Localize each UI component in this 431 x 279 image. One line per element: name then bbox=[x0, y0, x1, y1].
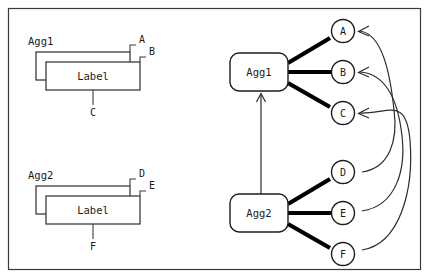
edge-f-to-c bbox=[360, 110, 411, 250]
circle-node-b[interactable]: B bbox=[332, 61, 355, 84]
agg1-corner-label-a: A bbox=[139, 34, 145, 45]
circle-node-d[interactable]: D bbox=[332, 161, 355, 184]
agg2-corner-label-d: D bbox=[139, 168, 145, 179]
edge-agg1-to-c bbox=[288, 83, 330, 107]
node-agg2[interactable]: Agg2 bbox=[230, 194, 288, 232]
agg1-edges-group bbox=[288, 38, 331, 107]
edge-agg2-to-agg1 bbox=[257, 94, 266, 197]
circle-d-label: D bbox=[340, 167, 346, 178]
circle-f-label: F bbox=[340, 249, 346, 260]
diagram-border bbox=[9, 9, 421, 270]
node-agg1-label: Agg1 bbox=[246, 66, 271, 78]
circle-node-c[interactable]: C bbox=[332, 102, 355, 125]
circle-b-label: B bbox=[340, 67, 346, 78]
edge-agg2-to-f bbox=[288, 224, 330, 248]
agg2-corner-label-e: E bbox=[149, 180, 155, 191]
agg1-group-title: Agg1 bbox=[28, 35, 53, 47]
node-agg1[interactable]: Agg1 bbox=[230, 53, 288, 91]
circle-node-e[interactable]: E bbox=[332, 202, 355, 225]
agg2-leader-e bbox=[140, 191, 146, 196]
node-agg2-label: Agg2 bbox=[246, 207, 271, 219]
agg2-group-title: Agg2 bbox=[28, 169, 53, 181]
agg1-leader-a bbox=[130, 45, 136, 52]
circle-a-label: A bbox=[340, 26, 346, 37]
circle-node-f[interactable]: F bbox=[332, 243, 355, 266]
agg2-leader-d bbox=[130, 179, 136, 186]
edge-agg1-to-a bbox=[288, 38, 330, 63]
circle-e-label: E bbox=[340, 208, 346, 219]
diagram-canvas: Agg1 Agg2 A B C D E F bbox=[0, 0, 431, 279]
circle-node-a[interactable]: A bbox=[332, 20, 355, 43]
agg2-bottom-label-f: F bbox=[90, 241, 96, 252]
agg2-inner-label: Label bbox=[77, 204, 109, 216]
arrowhead-a bbox=[359, 26, 370, 36]
agg2-edges-group bbox=[288, 179, 331, 248]
curved-edges-group bbox=[359, 26, 411, 250]
agg1-inner-label: Label bbox=[77, 70, 109, 82]
edge-e-to-b bbox=[360, 72, 403, 211]
agg1-corner-label-b: B bbox=[149, 46, 155, 57]
agg1-bottom-label-c: C bbox=[90, 107, 96, 118]
circle-c-label: C bbox=[340, 108, 346, 119]
diagram-svg: Agg1 Agg2 A B C D E F bbox=[0, 0, 431, 279]
edge-d-to-a bbox=[360, 31, 395, 172]
agg1-leader-b bbox=[140, 57, 146, 62]
edge-agg2-to-d bbox=[288, 179, 330, 204]
